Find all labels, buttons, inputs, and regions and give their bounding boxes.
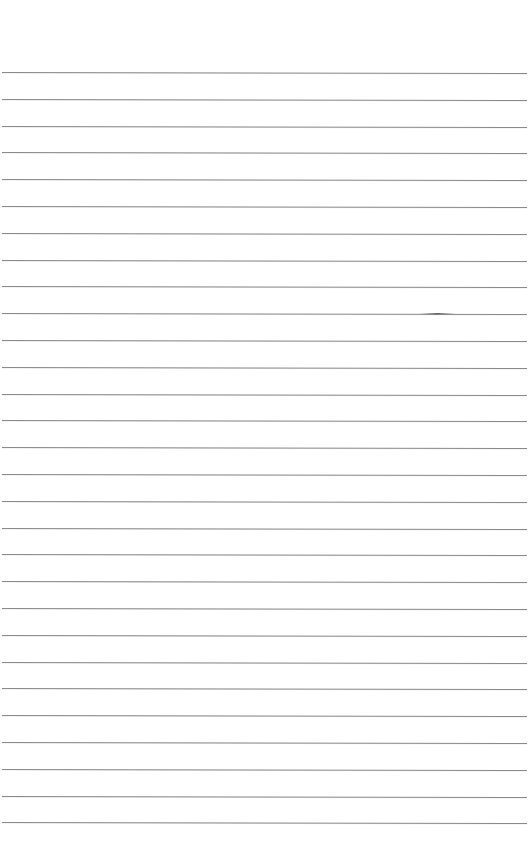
ruled-line [2,769,527,771]
ruled-line [2,233,527,235]
ruled-line [2,822,527,824]
ruled-line [2,179,527,181]
ruled-line [2,72,527,74]
ruled-line [2,715,527,717]
ruled-line [2,662,527,664]
ruled-line [2,635,527,637]
ruled-line [2,688,527,690]
ruled-line [2,99,527,101]
ruled-line [2,501,527,503]
ruled-line [2,528,527,530]
ruled-line [2,152,527,154]
ruled-line [2,742,527,744]
ruled-line [2,447,527,449]
ruled-line [2,394,527,396]
ruled-line [2,554,527,556]
ruled-line [2,367,527,369]
ruled-line [2,474,527,476]
ruled-line [2,260,527,262]
ruled-line [2,126,527,128]
ruled-line [2,608,527,610]
lined-paper [0,0,529,864]
ruled-line [2,796,527,798]
ruled-line [2,340,527,342]
ruled-line [2,581,527,583]
ruled-line [2,420,527,422]
ruled-line [2,206,527,208]
ruled-line [2,286,527,288]
